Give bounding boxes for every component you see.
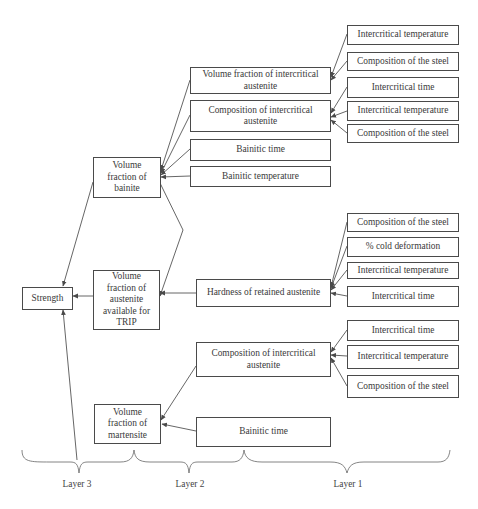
vf-martensite-node: Volume fraction of martensite [94,404,161,444]
node-text-line: Bainitic time [239,426,288,438]
bainitic-temperature-node: Bainitic temperature [190,166,331,187]
vf-bainite-node: Volume fraction of bainite [93,157,161,198]
l1-intercritical-time-1: Intercritical time [347,77,459,98]
l1-composition-steel-3: Composition of the steel [347,213,459,232]
node-text-line: Composition of intercritical [208,105,312,117]
node-text-line: fraction of [107,172,146,184]
l1-cold-deformation: % cold deformation [347,237,459,257]
strength-node: Strength [22,287,73,310]
l1-intercritical-temperature-2: Intercritical temperature [347,101,459,121]
node-text-line: Intercritical temperature [358,105,449,117]
layer-2-label: Layer 2 [176,479,205,489]
node-text-line: Composition of the steel [357,381,449,393]
node-text-line: austenite [244,116,277,128]
node-text-line: % cold deformation [366,241,440,253]
l1-intercritical-time-2: Intercritical time [347,286,459,307]
node-text-line: Composition of the steel [357,56,449,68]
node-text-line: Volume [113,407,142,419]
node-text-line: austenite [244,81,277,93]
node-text-line: Composition of the steel [357,128,449,140]
layer-braces [22,450,450,473]
node-text-line: Volume [112,271,141,283]
l1-composition-steel-4: Composition of the steel [347,375,459,398]
node-text-line: Intercritical temperature [358,351,449,363]
composition-intercritical-austenite-node-2: Composition of intercritical austenite [196,342,331,377]
node-text-line: TRIP [116,317,136,329]
node-text-line: Intercritical time [372,82,435,94]
strength-label: Strength [32,293,64,305]
composition-intercritical-austenite-node-1: Composition of intercritical austenite [190,100,331,132]
bainitic-time-node-2: Bainitic time [196,417,331,447]
node-text-line: Bainitic temperature [222,171,299,183]
node-text-line: fraction of [107,283,146,295]
node-text-line: martensite [108,430,147,442]
node-text-line: Composition of the steel [357,217,449,229]
node-text-line: Intercritical temperature [358,29,449,41]
layer-1-label: Layer 1 [334,479,363,489]
node-text-line: Hardness of retained austenite [207,287,320,299]
node-text-line: Intercritical temperature [358,265,449,277]
node-text-line: austenite [110,294,143,306]
l1-composition-steel-2: Composition of the steel [347,124,459,143]
l1-intercritical-time-3: Intercritical time [347,320,459,341]
l1-intercritical-temperature-3: Intercritical temperature [347,262,459,279]
node-text-line: fraction of [108,418,147,430]
bainitic-time-node-1: Bainitic time [190,139,331,161]
hardness-retained-austenite-node: Hardness of retained austenite [196,279,331,307]
node-text-line: Intercritical time [372,291,435,303]
node-text-line: Bainitic time [236,144,285,156]
node-text-line: Intercritical time [372,325,435,337]
node-text-line: Volume [113,160,142,172]
l1-intercritical-temperature-1: Intercritical temperature [347,25,459,45]
vf-intercritical-austenite-node: Volume fraction of intercritical austeni… [190,67,331,94]
l1-composition-steel-1: Composition of the steel [347,52,459,71]
l1-intercritical-temperature-4: Intercritical temperature [347,345,459,369]
node-text-line: austenite [247,360,280,372]
node-text-line: Composition of intercritical [211,348,315,360]
node-text-line: Volume fraction of intercritical [202,69,318,81]
node-text-line: available for [103,306,150,318]
layer-3-label: Layer 3 [63,479,92,489]
vf-austenite-trip-node: Volume fraction of austenite available f… [93,270,160,330]
node-text-line: bainite [114,183,140,195]
